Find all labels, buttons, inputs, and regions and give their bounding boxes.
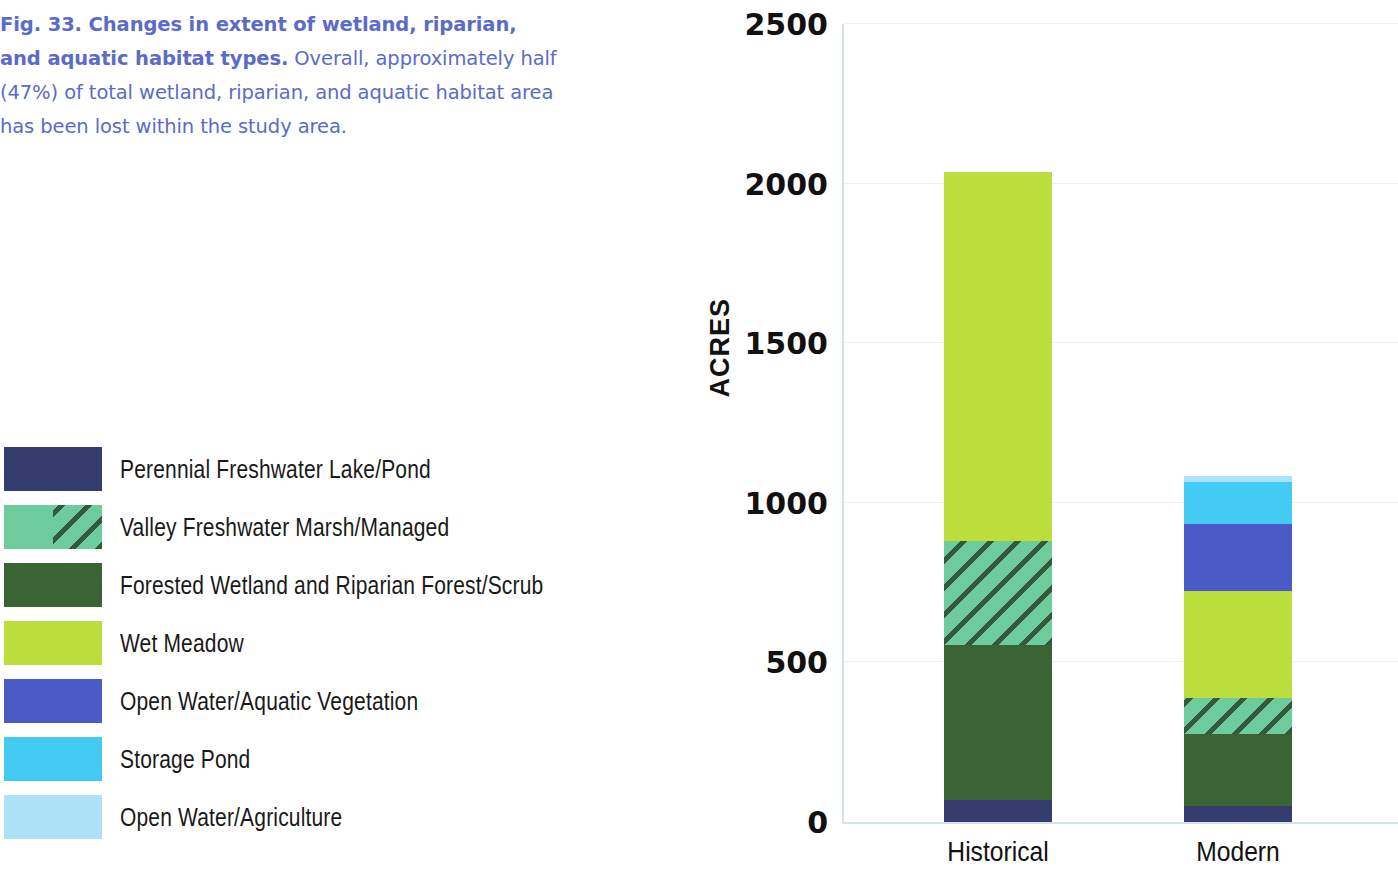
gridline	[844, 821, 1398, 822]
legend-label: Wet Meadow	[120, 629, 244, 658]
legend-item: Open Water/Aquatic Vegetation	[4, 672, 624, 730]
legend-item: Perennial Freshwater Lake/Pond	[4, 440, 624, 498]
hatch-pattern-icon	[53, 505, 102, 549]
y-axis-tick-label: 2000	[745, 166, 829, 201]
legend-swatch	[4, 563, 102, 607]
y-axis-tick-label: 1000	[745, 485, 829, 520]
bar-segment	[944, 645, 1052, 800]
legend-swatch	[4, 737, 102, 781]
gridline	[844, 23, 1398, 24]
legend-item: Open Water/Agriculture	[4, 788, 624, 846]
hatch-pattern-icon	[1184, 698, 1292, 735]
bar-segment	[1184, 734, 1292, 806]
gridline	[844, 342, 1398, 343]
bar-historical: Historical	[944, 172, 1052, 822]
gridline	[844, 183, 1398, 184]
bar-segment	[1184, 591, 1292, 698]
y-axis-title: ACRES	[705, 338, 736, 398]
legend-swatch	[4, 447, 102, 491]
legend-label: Storage Pond	[120, 745, 250, 774]
bar-segment	[944, 172, 1052, 541]
bar-modern: Modern	[1184, 476, 1292, 822]
figure-caption: Fig. 33. Changes in extent of wetland, r…	[0, 8, 560, 144]
legend-swatch	[4, 621, 102, 665]
legend-label: Perennial Freshwater Lake/Pond	[120, 455, 431, 484]
bar-segment	[944, 541, 1052, 645]
y-axis-tick-label: 0	[807, 805, 828, 840]
legend-swatch	[4, 505, 102, 549]
hatch-pattern-icon	[944, 541, 1052, 645]
legend-label: Forested Wetland and Riparian Forest/Scr…	[120, 571, 543, 600]
x-axis-tick-label: Historical	[892, 836, 1103, 868]
bar-segment	[1184, 482, 1292, 523]
plot-area: 05001000150020002500HistoricalModern	[842, 24, 1398, 824]
y-axis-tick-label: 2500	[745, 7, 829, 42]
chart-figure: ACRES 05001000150020002500HistoricalMode…	[690, 0, 1396, 875]
gridline	[844, 502, 1398, 503]
legend-item: Wet Meadow	[4, 614, 624, 672]
y-axis-tick-label: 500	[765, 645, 828, 680]
legend-label: Open Water/Aquatic Vegetation	[120, 687, 418, 716]
x-axis-tick-label: Modern	[1132, 836, 1343, 868]
bar-segment	[1184, 806, 1292, 822]
chart-legend: Perennial Freshwater Lake/PondValley Fre…	[4, 440, 624, 846]
legend-item: Valley Freshwater Marsh/Managed	[4, 498, 624, 556]
legend-item: Storage Pond	[4, 730, 624, 788]
bar-segment	[1184, 476, 1292, 482]
bar-segment	[944, 800, 1052, 822]
legend-swatch	[4, 795, 102, 839]
bar-segment	[1184, 698, 1292, 735]
gridline	[844, 661, 1398, 662]
y-axis-tick-label: 1500	[745, 326, 829, 361]
legend-label: Valley Freshwater Marsh/Managed	[120, 513, 449, 542]
legend-item: Forested Wetland and Riparian Forest/Scr…	[4, 556, 624, 614]
legend-swatch	[4, 679, 102, 723]
legend-label: Open Water/Agriculture	[120, 803, 342, 832]
bar-segment	[1184, 524, 1292, 591]
